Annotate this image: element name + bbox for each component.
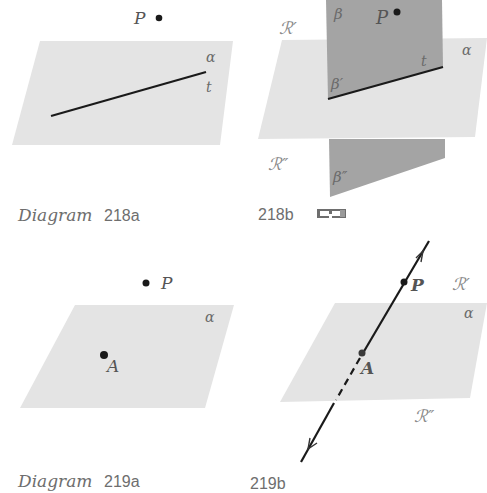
point-p-dot [401,279,408,286]
point-p-dot [156,15,163,22]
plane-alpha-label: α [206,49,216,65]
point-p-dot [143,280,150,287]
beta-lower-label: β″ [332,168,348,186]
caption-number: 219b [250,475,286,492]
caption-number: 219a [104,473,140,490]
plane-alpha-label: α [205,309,215,325]
point-p-label: P [410,275,425,295]
region-lower-label: ℛ″ [268,154,289,174]
caption-number: 218b [258,206,294,223]
plane-alpha [20,305,234,408]
diagram-219a: P A α Diagram 219a [17,273,234,491]
3d-glasses-icon [317,209,346,218]
point-p-label: P [375,7,389,28]
point-p-label: P [133,8,146,28]
beta-label: β [333,5,343,23]
point-a-dot [359,350,366,357]
plane-alpha-label: α [462,42,472,58]
line-t-label: t [206,79,212,95]
region-upper-label: ℛ′ [452,274,470,294]
diagram-219b: P A α ℛ′ ℛ″ 219b [250,241,487,492]
line-solid-lower [301,403,334,462]
diagram-218a: P α t Diagram 218a [12,8,233,225]
caption-word: Diagram [17,471,92,491]
plane-alpha-label: α [464,305,474,321]
point-p-label: P [160,273,173,293]
point-a-label: A [359,358,374,378]
plane-alpha [12,41,233,145]
point-a-label: A [105,356,119,376]
diagram-218b: P β β′ β″ t α ℛ′ ℛ″ 218b [258,0,487,223]
line-t-label: t [421,53,427,69]
region-upper-label: ℛ′ [279,18,297,38]
region-lower-label: ℛ″ [414,406,435,426]
geometry-figure: P α t Diagram 218a P β β′ β″ t α ℛ′ ℛ″ 2… [0,0,487,493]
beta-upper-label: β′ [330,75,344,93]
caption-word: Diagram [17,205,92,225]
caption-number: 218a [104,207,140,224]
point-p-dot [394,9,401,16]
